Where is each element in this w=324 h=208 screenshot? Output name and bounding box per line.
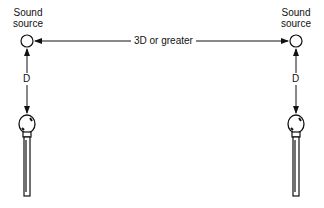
diagram-canvas [0, 0, 324, 208]
left-source-label: Sound source [3, 7, 53, 29]
right-source-label-line2: source [271, 18, 321, 29]
left-source-label-line1: Sound [3, 7, 53, 18]
right-source-label-line1: Sound [271, 7, 321, 18]
right-microphone-icon [288, 115, 304, 196]
right-sound-source-icon [290, 35, 302, 47]
right-distance-label: D [292, 73, 299, 85]
left-distance-label: D [23, 73, 30, 85]
left-sound-source-icon [21, 35, 33, 47]
right-source-label: Sound source [271, 7, 321, 29]
left-source-label-line2: source [3, 18, 53, 29]
left-microphone-icon [19, 115, 35, 196]
separation-label: 3D or greater [131, 35, 196, 46]
